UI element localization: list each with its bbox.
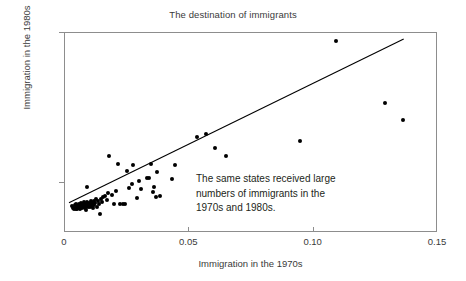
data-point xyxy=(131,163,135,167)
data-point xyxy=(173,163,177,167)
data-point xyxy=(112,202,116,206)
data-point xyxy=(383,101,387,105)
data-point xyxy=(298,139,302,143)
data-point xyxy=(116,162,120,166)
y-axis-label: Immigration in the 1980s xyxy=(21,0,32,148)
data-point xyxy=(152,185,156,189)
chart-annotation: The same states received largenumbers of… xyxy=(196,172,371,216)
data-point xyxy=(149,162,153,166)
data-point xyxy=(213,146,217,150)
data-point xyxy=(114,189,118,193)
x-tick-label: 0.15 xyxy=(415,236,459,247)
data-point xyxy=(154,195,158,199)
x-axis-label: Immigration in the 1970s xyxy=(64,258,437,269)
data-point xyxy=(125,169,129,173)
x-tick-mark xyxy=(313,227,314,232)
data-point xyxy=(139,187,143,191)
data-point xyxy=(110,193,114,197)
data-point xyxy=(130,182,134,186)
data-point xyxy=(151,190,155,194)
data-point xyxy=(158,194,162,198)
annotation-line: numbers of immigrants in the xyxy=(196,187,371,202)
data-point xyxy=(127,186,131,190)
data-point xyxy=(170,177,174,181)
data-point xyxy=(105,198,109,202)
y-tick-mark xyxy=(59,32,64,33)
data-point xyxy=(155,170,159,174)
data-point xyxy=(224,154,228,158)
y-tick-mark xyxy=(59,182,64,183)
annotation-line: 1970s and 1980s. xyxy=(196,201,371,216)
data-point xyxy=(123,202,127,206)
data-point xyxy=(137,179,141,183)
annotation-line: The same states received large xyxy=(196,172,371,187)
scatter-chart-figure: The destination of immigrants Immigratio… xyxy=(0,0,466,281)
x-tick-mark xyxy=(188,227,189,232)
data-point xyxy=(107,154,111,158)
x-tick-label: 0.05 xyxy=(166,236,210,247)
data-point xyxy=(100,200,104,204)
data-point xyxy=(195,135,199,139)
data-point xyxy=(135,196,139,200)
data-point xyxy=(401,118,405,122)
data-point xyxy=(204,132,208,136)
data-point xyxy=(334,39,338,43)
x-tick-label: 0 xyxy=(42,236,86,247)
data-point xyxy=(98,212,102,216)
data-point xyxy=(85,185,89,189)
x-tick-label: 0.10 xyxy=(291,236,335,247)
data-point xyxy=(147,176,151,180)
data-point xyxy=(106,191,110,195)
chart-title: The destination of immigrants xyxy=(0,9,466,20)
